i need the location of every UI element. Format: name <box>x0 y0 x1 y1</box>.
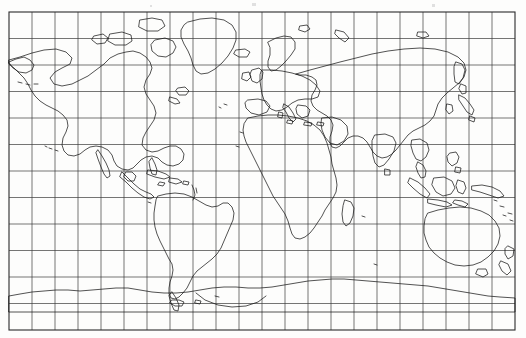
world-map-svg <box>0 0 526 338</box>
world-map-figure: World Map Outline Equirectangular (Plate… <box>0 0 526 338</box>
map-background <box>0 0 526 338</box>
